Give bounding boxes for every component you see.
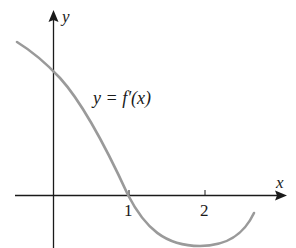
x-tick-label-2: 2 bbox=[200, 201, 209, 220]
x-tick-label-1: 1 bbox=[124, 201, 133, 220]
graph-canvas: y x y = f′(x) 1 2 bbox=[0, 0, 296, 248]
curve-label: y = f′(x) bbox=[91, 88, 151, 109]
y-axis-label: y bbox=[60, 7, 70, 26]
curve-f-prime bbox=[17, 42, 254, 246]
x-axis-label: x bbox=[275, 173, 284, 192]
